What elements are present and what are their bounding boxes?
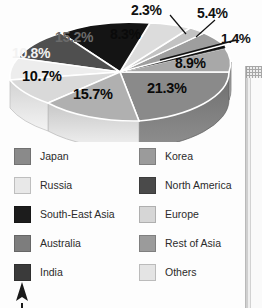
legend-item-australia[interactable]: Australia [14,229,115,258]
legend-swatch-rest-of-asia [139,235,156,252]
legend-label-japan: Japan [40,151,69,162]
legend-swatch-australia [14,235,31,252]
legend: Japan Russia South-East Asia Australia I… [0,142,245,280]
legend-label-north-america: North America [165,180,232,191]
legend-label-south-east-asia: South-East Asia [40,209,115,220]
adjacent-figure-hatch [246,66,262,78]
legend-column-right: Korea North America Europe Rest of Asia … [139,142,232,287]
pie-label-5-4: 5.4% [197,5,228,21]
pie-label-15-2: 15.2% [55,29,93,45]
pie-label-10-8: 10.8% [12,45,50,61]
legend-item-others[interactable]: Others [139,258,232,287]
pie-label-10-7: 10.7% [22,68,62,84]
pie-label-2-3: 2.3% [131,2,162,18]
legend-swatch-europe [139,206,156,223]
pie-label-21-3: 21.3% [147,80,187,96]
adjacent-figure-panel [250,78,262,308]
legend-item-north-america[interactable]: North America [139,171,232,200]
legend-label-india: India [40,267,63,278]
legend-label-rest-of-asia: Rest of Asia [165,238,221,249]
legend-swatch-north-america [139,177,156,194]
legend-item-russia[interactable]: Russia [14,171,115,200]
pie-label-1-4: 1.4% [221,31,251,46]
pie-label-15-7: 15.7% [73,86,113,102]
up-arrow-icon [12,282,32,308]
legend-item-korea[interactable]: Korea [139,142,232,171]
pie-label-8-3: 8.3% [110,26,141,42]
legend-column-left: Japan Russia South-East Asia Australia I… [14,142,115,287]
legend-swatch-russia [14,177,31,194]
legend-item-europe[interactable]: Europe [139,200,232,229]
legend-label-korea: Korea [165,151,193,162]
pie-chart: 2.3% 5.4% 1.4% 8.3% 8.9% 21.3% 15.7% 10.… [0,0,262,142]
legend-item-south-east-asia[interactable]: South-East Asia [14,200,115,229]
legend-swatch-others [139,264,156,281]
legend-swatch-korea [139,148,156,165]
legend-label-others: Others [165,267,197,278]
legend-swatch-south-east-asia [14,206,31,223]
legend-item-japan[interactable]: Japan [14,142,115,171]
legend-swatch-india [14,264,31,281]
legend-swatch-japan [14,148,31,165]
adjacent-figure-edge [245,66,262,308]
legend-label-europe: Europe [165,209,199,220]
legend-label-australia: Australia [40,238,81,249]
pie-label-8-9: 8.9% [175,55,206,71]
legend-item-rest-of-asia[interactable]: Rest of Asia [139,229,232,258]
legend-label-russia: Russia [40,180,72,191]
